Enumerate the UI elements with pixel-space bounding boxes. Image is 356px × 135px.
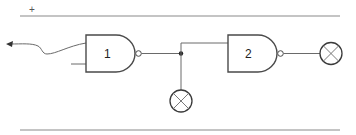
junction-lamp-icon bbox=[170, 90, 192, 112]
nand-gate-1: 1 bbox=[86, 35, 141, 72]
wavy-input-wire bbox=[6, 41, 86, 54]
gate-2-label: 2 bbox=[245, 47, 252, 61]
gate-1-label: 1 bbox=[104, 47, 111, 61]
positive-rail-label: + bbox=[29, 4, 35, 15]
arrowhead-icon bbox=[6, 41, 13, 47]
nand-gate-2: 2 bbox=[228, 35, 283, 72]
gate-1-inversion-bubble bbox=[136, 51, 142, 57]
gate-2-inversion-bubble bbox=[278, 51, 284, 57]
output-lamp-icon bbox=[320, 43, 342, 65]
logic-circuit-diagram: + 1 2 bbox=[0, 0, 356, 135]
